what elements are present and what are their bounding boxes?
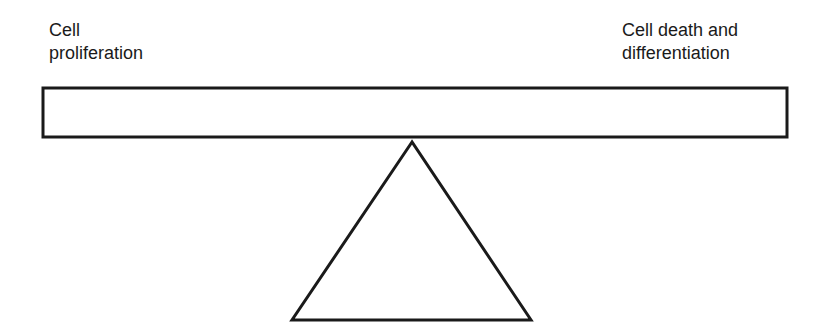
balance-beam — [43, 88, 787, 137]
fulcrum-triangle — [292, 142, 531, 320]
balance-diagram — [0, 0, 828, 333]
